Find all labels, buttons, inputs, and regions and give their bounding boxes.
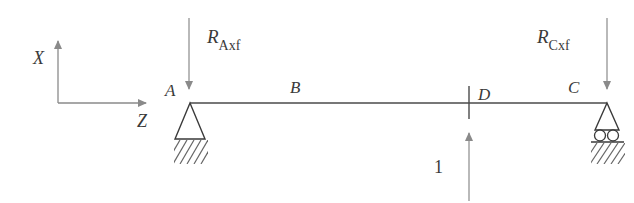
reaction-subscript-c: Cxf [549, 38, 570, 53]
pin-support-a [166, 103, 215, 164]
roller-triangle-icon [595, 103, 619, 130]
ground-hatch-icon [166, 140, 215, 164]
beam-diagram: X Z RAxf [0, 0, 634, 203]
point-label-c: C [568, 78, 580, 97]
x-axis-label: X [32, 48, 45, 68]
point-label-b: B [290, 78, 301, 97]
pin-triangle-icon [175, 103, 205, 139]
unit-load-label: 1 [434, 157, 443, 177]
roller-wheel-icon [608, 130, 619, 141]
roller-support-c [583, 103, 632, 164]
reaction-subscript-a: Axf [219, 38, 241, 53]
ground-hatch-icon [583, 143, 632, 164]
coordinate-axes: X Z [32, 41, 148, 131]
reaction-symbol-c: R [536, 26, 549, 47]
z-axis-label: Z [137, 111, 148, 131]
reaction-label-a: RAxf [206, 26, 241, 53]
reaction-symbol-a: R [206, 26, 219, 47]
point-label-a: A [164, 81, 176, 100]
roller-wheel-icon [595, 130, 606, 141]
point-label-d: D [477, 85, 491, 104]
reaction-label-c: RCxf [536, 26, 570, 53]
